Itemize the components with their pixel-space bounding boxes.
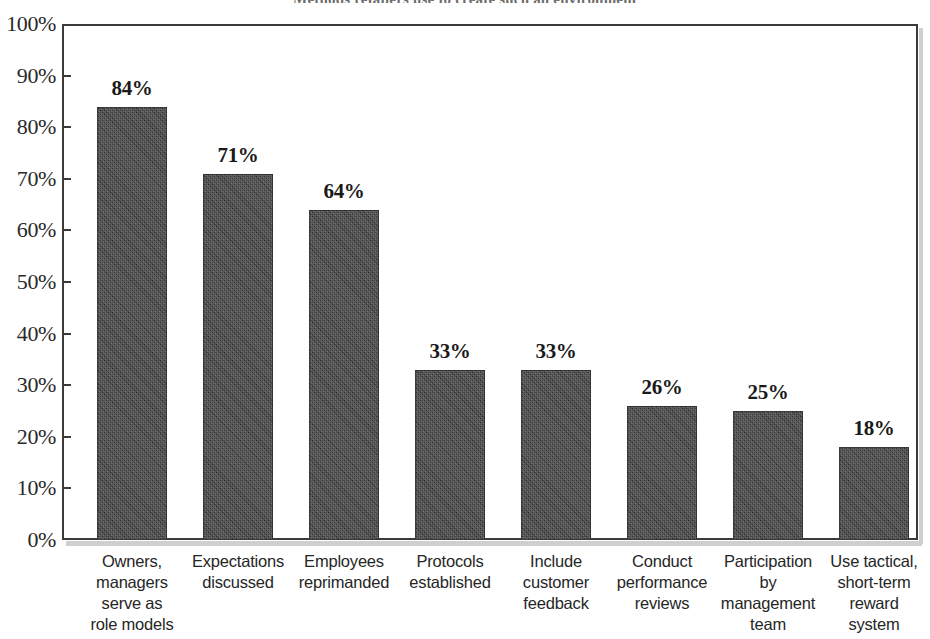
x-axis-category-label: Participationbymanagementteam xyxy=(716,551,820,635)
x-axis-category-label: Protocolsestablished xyxy=(398,551,502,593)
x-axis-category-label: Conductperformancereviews xyxy=(610,551,714,614)
bar-value-label: 18% xyxy=(821,416,927,441)
x-axis-category-line: customer xyxy=(504,572,608,593)
x-axis-category-label: Use tactical,short-termrewardsystem xyxy=(822,551,926,635)
x-axis-category-line: reviews xyxy=(610,593,714,614)
x-axis-category-label: Owners,managersserve asrole models xyxy=(80,551,184,635)
x-axis-category-line: Conduct xyxy=(610,551,714,572)
x-axis-category-line: feedback xyxy=(504,593,608,614)
bar-value-label: 71% xyxy=(185,143,291,168)
x-axis-category-line: system xyxy=(822,614,926,635)
bar xyxy=(203,174,273,540)
x-axis-category-line: managers xyxy=(80,572,184,593)
bar xyxy=(733,411,803,540)
bar-chart: Methods retailers use to create such an … xyxy=(0,0,930,639)
x-axis-category-label: Includecustomerfeedback xyxy=(504,551,608,614)
x-axis-category-label: Employeesreprimanded xyxy=(292,551,396,593)
bar-value-label: 64% xyxy=(291,179,397,204)
x-axis-category-line: Use tactical, xyxy=(822,551,926,572)
x-axis-category-line: team xyxy=(716,614,820,635)
x-axis-category-line: Protocols xyxy=(398,551,502,572)
x-axis-category-line: discussed xyxy=(186,572,290,593)
bar xyxy=(415,370,485,540)
bar-value-label: 33% xyxy=(503,339,609,364)
bar-value-label: 33% xyxy=(397,339,503,364)
x-axis-category-line: Participation xyxy=(716,551,820,572)
x-axis-category-line: role models xyxy=(80,614,184,635)
x-axis-category-line: established xyxy=(398,572,502,593)
x-axis-category-line: short-term xyxy=(822,572,926,593)
x-axis-category-line: performance xyxy=(610,572,714,593)
x-axis-category-line: Expectations xyxy=(186,551,290,572)
x-axis-category-line: Employees xyxy=(292,551,396,572)
bar xyxy=(839,447,909,540)
x-axis-category-label: Expectationsdiscussed xyxy=(186,551,290,593)
bar xyxy=(521,370,591,540)
bar-value-label: 25% xyxy=(715,380,821,405)
x-axis-category-line: Owners, xyxy=(80,551,184,572)
bar-value-label: 84% xyxy=(79,76,185,101)
x-axis-category-line: serve as xyxy=(80,593,184,614)
x-axis-category-line: management xyxy=(716,593,820,614)
bar xyxy=(309,210,379,540)
x-axis-category-line: reprimanded xyxy=(292,572,396,593)
x-axis-category-line: Include xyxy=(504,551,608,572)
bar-value-label: 26% xyxy=(609,375,715,400)
bar xyxy=(97,107,167,540)
bar-series: 84%71%64%33%33%26%25%18% xyxy=(0,0,930,639)
bar xyxy=(627,406,697,540)
x-axis-category-line: by xyxy=(716,572,820,593)
x-axis-category-line: reward xyxy=(822,593,926,614)
